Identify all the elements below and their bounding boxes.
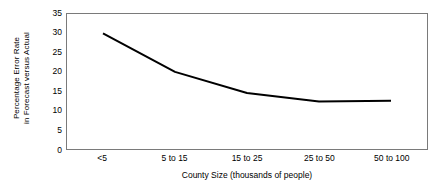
y-axis-tick-label: 20 [53,67,62,76]
y-axis-tick-label: 15 [53,87,62,96]
x-axis-tick-label: <5 [97,153,107,163]
y-axis-title-text: Percentage Error Rate in Forecast versus… [12,32,32,124]
x-axis-tick-label: 5 to 15 [162,153,188,163]
x-axis-tick-label: 15 to 25 [232,153,263,163]
y-axis-tick-label: 0 [57,146,62,155]
plot-area [66,13,428,150]
y-axis-title-line-1: Percentage Error Rate [12,32,22,124]
x-axis-tick-labels: <55 to 1515 to 2525 to 5050 to 100 [66,153,428,165]
y-axis-tick-label: 10 [53,106,62,115]
y-axis-title: Percentage Error Rate in Forecast versus… [0,0,44,155]
plot-svg [67,14,427,149]
x-axis-tick-label: 50 to 100 [374,153,409,163]
x-axis-tick-label: 25 to 50 [304,153,335,163]
x-axis-title: County Size (thousands of people) [66,170,428,180]
y-axis-title-line-2: in Forecast versus Actual [22,32,32,124]
y-axis-tick-label: 35 [53,9,62,18]
chart-figure: Percentage Error Rate in Forecast versus… [0,0,439,189]
y-axis-tick-label: 30 [53,28,62,37]
y-axis-tick-label: 25 [53,48,62,57]
y-axis-tick-labels: 05101520253035 [44,0,64,189]
y-axis-tick-label: 5 [57,126,62,135]
data-series-line [103,33,391,101]
